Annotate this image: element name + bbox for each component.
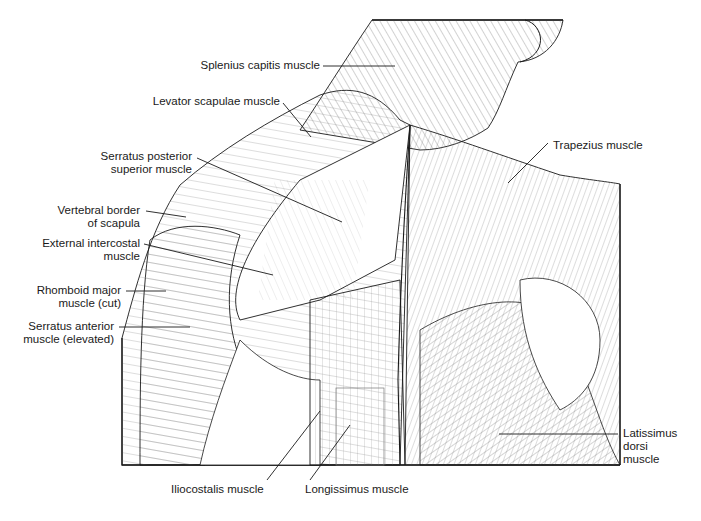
- label-line: Rhomboid major: [10, 284, 121, 297]
- label-line: superior muscle: [70, 163, 192, 176]
- label-line: muscle: [20, 250, 140, 263]
- label-line: External intercostal: [20, 237, 140, 250]
- label-line: Serratus anterior: [0, 320, 114, 333]
- label-line: of scapula: [30, 217, 140, 230]
- label-line: Serratus posterior: [70, 150, 192, 163]
- label-rhomboid-major: Rhomboid major muscle (cut): [10, 284, 121, 310]
- label-levator-scapulae: Levator scapulae muscle: [120, 95, 280, 108]
- label-iliocostalis: Iliocostalis muscle: [171, 483, 264, 496]
- label-serratus-anterior: Serratus anterior muscle (elevated): [0, 320, 114, 346]
- label-line: muscle (cut): [10, 297, 121, 310]
- label-latissimus-dorsi: Latissimus dorsi muscle: [623, 427, 677, 466]
- label-line: Vertebral border: [30, 204, 140, 217]
- label-line: dorsi: [623, 440, 677, 453]
- label-trapezius: Trapezius muscle: [553, 139, 643, 152]
- label-external-intercostal: External intercostal muscle: [20, 237, 140, 263]
- label-line: Latissimus: [623, 427, 677, 440]
- label-splenius-capitis: Splenius capitis muscle: [170, 59, 320, 72]
- label-vertebral-border: Vertebral border of scapula: [30, 204, 140, 230]
- label-longissimus: Longissimus muscle: [305, 483, 409, 496]
- label-line: muscle: [623, 453, 677, 466]
- label-serratus-posterior-superior: Serratus posterior superior muscle: [70, 150, 192, 176]
- erector-spinae: [310, 280, 405, 465]
- label-line: muscle (elevated): [0, 333, 114, 346]
